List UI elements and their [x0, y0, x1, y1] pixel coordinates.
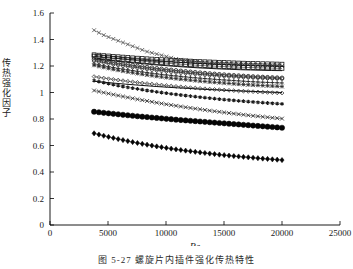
data-marker	[106, 134, 110, 139]
data-marker	[97, 31, 101, 35]
data-marker	[121, 41, 125, 45]
data-marker	[208, 151, 212, 156]
data-marker	[275, 157, 279, 162]
data-marker	[120, 112, 125, 117]
data-marker	[150, 143, 154, 148]
data-marker	[188, 118, 193, 123]
data-marker	[106, 111, 111, 116]
data-series	[92, 131, 284, 163]
data-marker	[256, 156, 260, 161]
data-marker	[91, 109, 96, 114]
data-marker	[145, 73, 149, 77]
data-marker	[116, 68, 120, 72]
data-marker	[236, 122, 241, 127]
x-axis-tick-label: 5000	[99, 228, 118, 238]
y-axis-tick-label: 0.4	[33, 167, 45, 177]
data-marker	[193, 119, 198, 124]
data-marker	[131, 71, 135, 75]
data-marker	[227, 82, 231, 86]
data-marker	[212, 120, 217, 125]
data-marker	[217, 81, 221, 85]
data-marker	[136, 72, 140, 76]
data-marker	[183, 118, 188, 123]
data-marker	[237, 82, 241, 86]
y-axis-tick-label: 0.6	[33, 141, 45, 151]
data-marker	[145, 142, 149, 147]
data-marker	[246, 83, 250, 87]
data-marker	[270, 84, 274, 88]
data-marker	[232, 79, 236, 83]
data-marker	[149, 115, 154, 120]
data-marker	[111, 111, 116, 116]
data-marker	[266, 84, 270, 88]
data-marker	[169, 76, 173, 80]
data-marker	[250, 123, 255, 128]
data-marker	[197, 119, 202, 124]
plot-area: 00.20.40.60.811.21.41.605000100001500020…	[0, 0, 353, 246]
data-marker	[160, 75, 164, 79]
data-marker	[125, 113, 130, 118]
data-marker	[126, 42, 130, 46]
data-marker	[212, 151, 216, 156]
y-axis-tick-label: 0.8	[33, 114, 45, 124]
y-axis-tick-label: 0	[40, 220, 45, 230]
data-marker	[246, 155, 250, 160]
data-marker	[92, 28, 96, 32]
data-marker	[184, 148, 188, 153]
data-marker	[159, 145, 163, 150]
data-marker	[179, 147, 183, 152]
data-marker	[280, 157, 284, 162]
data-marker	[140, 114, 145, 119]
data-marker	[111, 67, 115, 71]
data-marker	[135, 114, 140, 119]
data-marker	[275, 81, 279, 85]
data-marker	[150, 74, 154, 78]
data-marker	[237, 154, 241, 159]
data-marker	[261, 80, 265, 84]
data-marker	[131, 139, 135, 144]
data-marker	[202, 119, 207, 124]
data-marker	[116, 136, 120, 141]
data-marker	[164, 145, 168, 150]
x-axis-tick-label: 15000	[213, 228, 236, 238]
figure-container: 传热强化因子 00.20.40.60.811.21.41.60500010000…	[0, 0, 353, 269]
y-axis-tick-label: 1.4	[33, 35, 45, 45]
data-marker	[275, 125, 280, 130]
data-marker	[189, 78, 193, 82]
data-marker	[203, 150, 207, 155]
data-marker	[102, 33, 106, 37]
figure-caption: 图 5-27 螺旋片内插件强化传热特性	[0, 252, 353, 269]
data-marker	[217, 120, 222, 125]
data-marker	[270, 124, 275, 129]
data-marker	[174, 147, 178, 152]
x-axis-tick-label: 10000	[155, 228, 178, 238]
data-marker	[193, 149, 197, 154]
data-marker	[102, 133, 106, 138]
data-series	[91, 109, 284, 130]
data-marker	[150, 51, 154, 55]
data-marker	[261, 156, 265, 161]
data-marker	[217, 152, 221, 157]
data-marker	[130, 113, 135, 118]
series-line	[94, 30, 282, 66]
data-marker	[107, 35, 111, 39]
data-marker	[265, 124, 270, 129]
x-axis-tick-label: 0	[48, 228, 53, 238]
data-marker	[227, 153, 231, 158]
data-marker	[184, 78, 188, 82]
data-marker	[140, 141, 144, 146]
data-marker	[260, 124, 265, 129]
data-marker	[135, 140, 139, 145]
data-marker	[155, 74, 159, 78]
data-marker	[251, 83, 255, 87]
data-marker	[169, 117, 174, 122]
data-marker	[256, 83, 260, 87]
data-marker	[226, 121, 231, 126]
data-marker	[136, 46, 140, 50]
x-axis-tick-label: 20000	[271, 228, 294, 238]
data-marker	[126, 70, 130, 74]
data-marker	[159, 116, 164, 121]
data-marker	[266, 81, 270, 85]
data-marker	[144, 114, 149, 119]
data-marker	[140, 48, 144, 52]
